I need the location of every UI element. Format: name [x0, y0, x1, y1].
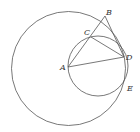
- label-A: A: [59, 63, 66, 72]
- label-D: D: [125, 53, 133, 62]
- geometry-diagram: A B C D E: [0, 0, 140, 132]
- segment-AD: [68, 57, 124, 67]
- label-B: B: [105, 8, 112, 17]
- segment-AB: [68, 16, 105, 67]
- small-circle: [68, 36, 128, 96]
- label-E: E: [126, 84, 133, 93]
- label-C: C: [84, 28, 90, 37]
